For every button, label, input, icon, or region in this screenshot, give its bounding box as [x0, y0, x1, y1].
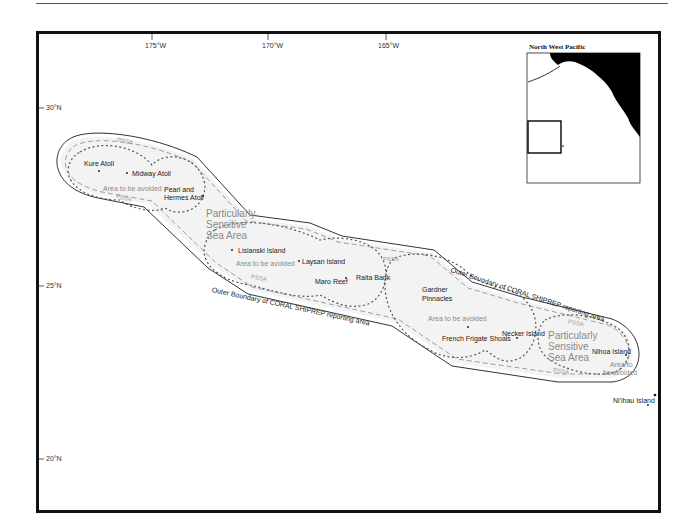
label-atba-2: Area to be avoided	[236, 260, 295, 268]
label-lisianski-island: Lisianski Island	[238, 247, 285, 255]
label-pssa-big-2a: Particularly	[548, 330, 597, 341]
label-pssa-big-1a: Particularly	[206, 208, 255, 219]
label-raita-bank: Raita Bank	[356, 274, 390, 282]
label-pssa-small-4: PSSA	[383, 256, 399, 262]
label-niihau-island: Ni'ihau Island	[613, 397, 655, 405]
label-maro-reef: Maro Reef	[315, 278, 348, 286]
inset-map	[527, 53, 640, 183]
label-nihoa-island: Nihoa Island	[592, 348, 631, 356]
lat-label-25n: 25°N	[46, 282, 62, 289]
inset-title: North West Pacific	[529, 43, 585, 51]
label-atba-4a: Area to	[610, 361, 633, 369]
label-laysan-island: Laysan Island	[302, 258, 345, 266]
label-pssa-big-1b: Sensitive	[206, 219, 247, 230]
label-pssa-big-2c: Sea Area	[548, 352, 589, 363]
lat-label-20n: 20°N	[46, 455, 62, 462]
label-atba-4b: be avoided	[603, 369, 637, 377]
label-atba-3: Area to be avoided	[428, 315, 487, 323]
label-pearl-hermes-2: Hermes Atoll	[164, 194, 204, 202]
label-french-frigate-shoals: French Frigate Shoals	[442, 335, 511, 343]
lon-label-165w: 165°W	[378, 42, 399, 49]
label-atba-1: Area to be avoided	[103, 185, 162, 193]
label-gardner-1: Gardner	[422, 286, 448, 294]
lon-label-175w: 175°W	[145, 42, 166, 49]
label-gardner-2: Pinnacles	[422, 295, 452, 303]
map-canvas	[0, 0, 692, 532]
label-kure-atoll: Kure Atoll	[84, 160, 114, 168]
lon-label-170w: 170°W	[262, 42, 283, 49]
label-pearl-hermes-1: Pearl and	[164, 186, 194, 194]
label-pssa-big-1c: Sea Area	[206, 230, 247, 241]
lat-label-30n: 30°N	[46, 104, 62, 111]
label-midway-atoll: Midway Atoll	[132, 170, 171, 178]
label-necker-island: Necker Island	[502, 330, 545, 338]
hawaii-marker	[562, 145, 564, 147]
label-pssa-big-2b: Sensitive	[548, 341, 589, 352]
